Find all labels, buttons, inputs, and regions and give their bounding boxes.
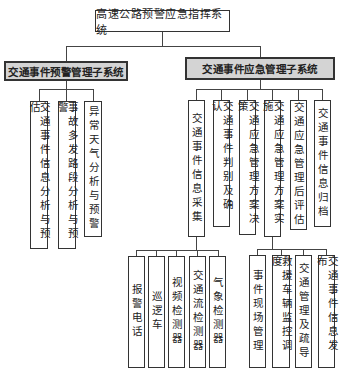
connector <box>196 237 197 250</box>
connector <box>322 89 323 100</box>
connector <box>66 46 67 61</box>
connector <box>196 89 197 100</box>
node-plan-implementation: 交通应急管理方案实施 <box>264 100 281 237</box>
node-event-info-analysis: 交通事件信息分析与预估 <box>30 101 48 249</box>
node-label: 交通事件信息采集 <box>191 113 202 225</box>
subsystem-emergency: 交通事件应急管理子系统 <box>185 57 335 80</box>
node-label: 交通应急管理方案决策 <box>237 101 258 234</box>
node-label: 救援车辆监控调度 <box>271 256 292 367</box>
connector <box>272 89 273 100</box>
node-patrol-car: 巡逻车 <box>148 256 165 368</box>
connector <box>260 80 261 89</box>
node-weather-detector: 气象检测器 <box>209 256 226 368</box>
node-label: 交通事件信息归档 <box>317 108 328 220</box>
connector <box>93 89 94 101</box>
node-info-archive: 交通事件信息归档 <box>314 100 331 227</box>
node-label: 异常天气分析与预警 <box>88 106 99 232</box>
node-label: 交通应急管理后评估 <box>293 102 304 228</box>
node-label: 报警电话 <box>131 284 142 340</box>
subsystem-warning-label: 交通事件预警管理子系统 <box>8 64 124 79</box>
node-label: 交通应急管理方案实施 <box>262 101 283 236</box>
connector <box>257 249 327 250</box>
node-event-identification: 交通事件判别及确认 <box>213 100 230 227</box>
connector <box>272 237 273 249</box>
node-info-release: 交通事件信息发布 <box>318 255 335 368</box>
node-video-detector: 视频检测器 <box>168 256 185 368</box>
connector <box>247 89 248 100</box>
node-info-collection: 交通事件信息采集 <box>188 100 205 237</box>
connector <box>221 89 222 100</box>
node-label: 事故多发路段分析与预警 <box>57 102 78 248</box>
node-traffic-flow-detector: 交通流检测器 <box>189 256 206 368</box>
connector <box>66 46 260 47</box>
node-label: 交通事件信息发布 <box>316 256 337 367</box>
node-label: 交通管理及疏导 <box>298 263 309 361</box>
connector <box>136 250 218 251</box>
root-node: 高速公路预警应急指挥系统 <box>95 10 230 32</box>
node-alarm-phone: 报警电话 <box>128 256 145 368</box>
connector <box>66 81 67 89</box>
node-label: 交通事件判别及确认 <box>211 101 232 226</box>
node-post-evaluation: 交通应急管理后评估 <box>290 100 307 230</box>
node-scene-management: 事件现场管理 <box>249 255 266 368</box>
node-rescue-dispatch: 救援车辆监控调度 <box>272 255 290 368</box>
node-label: 交通流检测器 <box>192 270 203 354</box>
node-label: 视频检测器 <box>171 277 182 347</box>
subsystem-emergency-label: 交通事件应急管理子系统 <box>202 61 318 76</box>
node-abnormal-weather-analysis: 异常天气分析与预警 <box>84 101 102 237</box>
connector <box>196 89 323 90</box>
connector <box>162 32 163 46</box>
node-accident-prone-analysis: 事故多发路段分析与预警 <box>58 101 76 249</box>
node-label: 事件现场管理 <box>252 270 263 354</box>
node-plan-decision: 交通应急管理方案决策 <box>239 100 256 235</box>
node-traffic-guidance: 交通管理及疏导 <box>295 255 312 368</box>
node-label: 气象检测器 <box>212 277 223 347</box>
node-label: 巡逻车 <box>151 291 162 333</box>
connector <box>298 89 299 100</box>
connector <box>39 89 40 101</box>
connector <box>66 89 67 101</box>
subsystem-warning: 交通事件预警管理子系统 <box>4 61 128 81</box>
node-label: 交通事件信息分析与预估 <box>29 102 50 248</box>
